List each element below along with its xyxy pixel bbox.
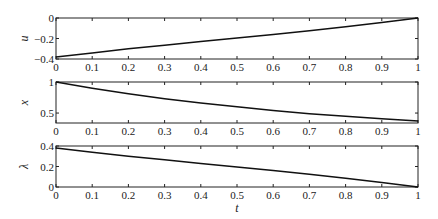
series-line-λ: [56, 148, 418, 187]
x-tick-label: 0.2: [122, 125, 136, 137]
x-tick-label: 0.6: [266, 125, 280, 137]
x-axis-label: t: [235, 201, 239, 215]
x-tick-label: 0.2: [122, 61, 136, 73]
x-tick-label: 0.7: [303, 61, 317, 73]
x-tick-label: 0.1: [85, 189, 99, 201]
x-tick-label: 0.1: [85, 125, 99, 137]
y-axis-label: u: [17, 36, 31, 42]
x-tick-label: 0: [53, 189, 59, 201]
x-tick-label: 0.4: [194, 125, 208, 137]
series-line-u: [56, 18, 418, 57]
y-tick-label: 0.4: [40, 140, 54, 152]
y-tick-label: 1: [49, 76, 55, 88]
x-tick-label: 0.3: [158, 189, 172, 201]
x-tick-label: 0.6: [266, 189, 280, 201]
x-tick-label: 1: [415, 189, 421, 201]
x-tick-label: 0.7: [303, 125, 317, 137]
x-tick-label: 0.9: [375, 125, 389, 137]
series-line-x: [56, 82, 418, 121]
x-tick-label: 0: [53, 61, 59, 73]
x-tick-label: 0.4: [194, 61, 208, 73]
x-tick-label: 0.9: [375, 61, 389, 73]
y-tick-label: −0.4: [34, 53, 54, 65]
y-tick-label: 0.5: [40, 107, 54, 119]
x-tick-label: 0.3: [158, 61, 172, 73]
y-tick-label: 0: [49, 12, 55, 24]
x-tick-label: 0.8: [339, 61, 353, 73]
y-tick-label: 0: [49, 181, 55, 193]
x-tick-label: 0.8: [339, 189, 353, 201]
x-tick-label: 0.5: [230, 61, 244, 73]
x-tick-label: 0.9: [375, 189, 389, 201]
x-tick-label: 1: [415, 125, 421, 137]
x-tick-label: 0.6: [266, 61, 280, 73]
x-tick-label: 0.5: [230, 125, 244, 137]
x-tick-label: 1: [415, 61, 421, 73]
y-tick-label: −0.2: [34, 33, 54, 45]
x-tick-label: 0.7: [303, 189, 317, 201]
x-tick-label: 0.5: [230, 189, 244, 201]
y-axis-label: x: [17, 99, 31, 106]
y-tick-label: 0.2: [40, 161, 54, 173]
x-tick-label: 0.1: [85, 61, 99, 73]
y-axis-label: λ: [17, 164, 31, 170]
x-tick-label: 0.3: [158, 125, 172, 137]
chart-figure: 00.10.20.30.40.50.60.70.80.91−0.4−0.20u0…: [0, 0, 438, 219]
x-tick-label: 0: [53, 125, 59, 137]
x-tick-label: 0.2: [122, 189, 136, 201]
x-tick-label: 0.8: [339, 125, 353, 137]
x-tick-label: 0.4: [194, 189, 208, 201]
